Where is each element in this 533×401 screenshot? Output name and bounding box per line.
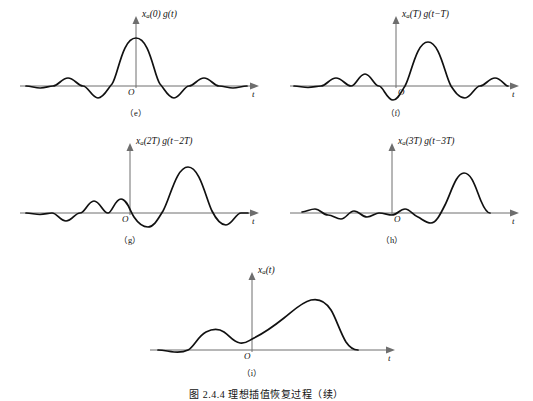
panel-i-subcaption: （i） [232,366,272,378]
sinc-curve-g [26,167,248,227]
panel-h-t-label: t [512,217,515,226]
panel-e-subcaption: （e） [116,106,156,118]
panel-f-plot [288,8,528,118]
panel-g: xa(2T) g(t−2T) O t （g） [18,133,263,245]
panel-f-subcaption: （f） [376,106,416,118]
panel-i-t-label: t [388,354,391,363]
panel-g-subcaption: （g） [110,233,150,245]
panel-i-origin-label: O [244,352,251,361]
y-axis-arrow [127,143,134,151]
y-axis-arrow [133,16,140,24]
panel-g-signal-label: xa(2T) g(t−2T) [136,137,193,147]
panel-e-signal-label: xa(0) g(t) [142,10,177,20]
panel-i-signal-label: xa(t) [258,266,275,276]
panel-g-plot [18,133,263,245]
y-axis-arrow [393,16,400,24]
panel-i: xa(t) O t （i） [148,262,408,382]
panel-h-subcaption: （h） [372,233,412,245]
panel-h-origin-label: O [394,215,401,224]
panel-g-t-label: t [252,217,255,226]
panel-f: xa(T) g(t−T) O t （f） [288,8,528,118]
panel-g-origin-label: O [122,215,129,224]
panel-i-plot [148,262,408,382]
panel-f-t-label: t [512,90,515,99]
panel-e-origin-label: O [128,88,135,97]
panel-e-plot [18,8,263,118]
panel-f-origin-label: O [398,88,405,97]
panel-e: xa(0) g(t) O t （e） [18,8,263,118]
reconstructed-signal-curve-i [158,299,358,352]
y-axis-arrow [249,272,256,280]
panel-f-signal-label: xa(T) g(t−T) [402,10,449,20]
panel-h-plot [288,133,528,245]
y-axis-arrow [389,143,396,151]
panel-e-t-label: t [252,90,255,99]
panel-h: xa(3T) g(t−3T) O t （h） [288,133,528,245]
figure-caption: 图 2.4.4 理想插值恢复过程（续） [0,386,533,401]
panel-h-signal-label: xa(3T) g(t−3T) [398,137,455,147]
